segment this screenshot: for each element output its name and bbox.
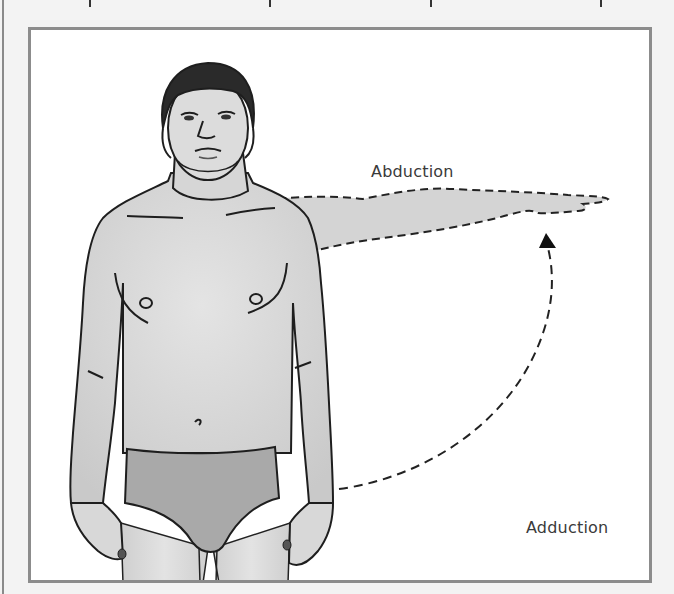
arrowhead-icon — [539, 233, 556, 248]
left-hand — [71, 503, 126, 559]
right-hand — [283, 503, 333, 565]
page-rule-left — [2, 0, 4, 594]
motion-arc — [339, 233, 556, 489]
label-abduction: Abduction — [371, 162, 454, 181]
illustration-frame: Abduction Adduction — [28, 27, 652, 583]
label-adduction: Adduction — [526, 518, 608, 537]
anatomy-illustration — [31, 30, 649, 580]
